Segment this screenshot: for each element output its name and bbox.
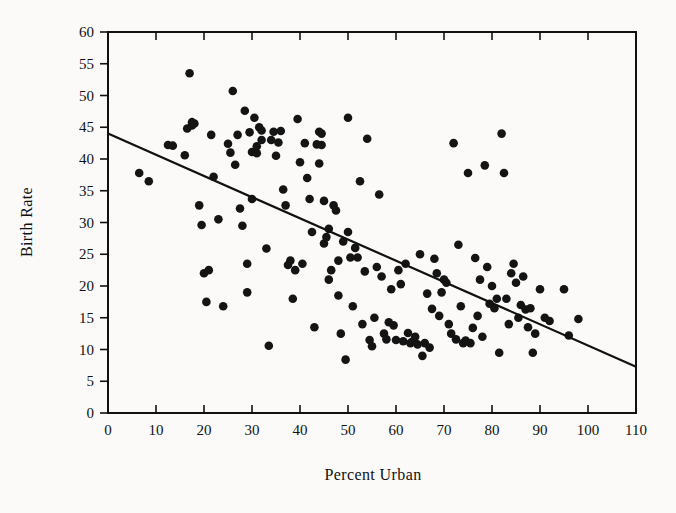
data-point — [526, 304, 535, 313]
data-point — [445, 320, 454, 329]
y-tick-label: 0 — [87, 405, 95, 421]
data-point — [303, 174, 312, 183]
data-point — [229, 87, 238, 96]
data-point — [219, 302, 228, 311]
data-point — [291, 266, 300, 275]
data-point — [394, 266, 403, 275]
data-point — [286, 256, 295, 265]
y-tick-label: 25 — [79, 246, 94, 262]
data-point — [296, 158, 305, 167]
data-point — [207, 131, 216, 140]
axis-frame-rect — [108, 32, 636, 413]
data-point — [382, 335, 391, 344]
data-point — [483, 263, 492, 272]
data-point — [413, 340, 422, 349]
data-point — [476, 275, 485, 284]
data-point — [356, 177, 365, 186]
y-tick-label: 30 — [79, 215, 94, 231]
data-point — [169, 141, 178, 150]
x-tick-label: 0 — [104, 422, 112, 438]
data-point — [250, 113, 259, 122]
data-point — [505, 320, 514, 329]
data-point — [428, 305, 437, 314]
data-point — [238, 221, 247, 230]
chart-canvas: 0102030405060708090100110 05101520253035… — [0, 0, 676, 513]
data-point — [377, 272, 386, 281]
data-point — [308, 228, 317, 237]
x-tick-label: 50 — [341, 422, 356, 438]
x-tick-label: 60 — [389, 422, 404, 438]
data-point — [334, 291, 343, 300]
y-tick-label: 15 — [79, 310, 94, 326]
x-tick-label: 30 — [245, 422, 260, 438]
y-tick-label: 10 — [79, 342, 94, 358]
data-point — [373, 263, 382, 272]
x-tick-label: 90 — [533, 422, 548, 438]
data-point — [334, 256, 343, 265]
data-point — [418, 352, 427, 361]
data-point — [243, 288, 252, 297]
x-tick-label: 100 — [577, 422, 600, 438]
data-point — [332, 206, 341, 215]
data-point — [397, 280, 406, 289]
data-point — [389, 321, 398, 330]
data-point — [320, 197, 329, 206]
data-point — [241, 106, 250, 115]
data-point — [416, 250, 425, 259]
data-point — [399, 337, 408, 346]
data-point — [435, 312, 444, 321]
x-tick-label: 10 — [149, 422, 164, 438]
data-point — [224, 139, 233, 148]
data-point — [457, 302, 466, 311]
y-tick-label: 35 — [79, 183, 94, 199]
y-axis-tick-labels: 051015202530354045505560 — [79, 24, 94, 421]
data-point — [449, 139, 458, 148]
x-tick-label: 70 — [437, 422, 452, 438]
data-point — [272, 152, 281, 161]
scatter-points — [135, 69, 583, 364]
data-point — [327, 266, 336, 275]
data-point — [392, 336, 401, 345]
data-point — [226, 148, 235, 157]
data-point — [502, 294, 511, 303]
data-point — [344, 228, 353, 237]
y-axis-title: Birth Rate — [18, 187, 35, 257]
data-point — [437, 288, 446, 297]
data-point — [205, 266, 214, 275]
data-point — [310, 323, 319, 332]
data-point — [195, 201, 204, 210]
x-tick-label: 80 — [485, 422, 500, 438]
data-point — [387, 285, 396, 294]
data-point — [349, 302, 358, 311]
data-point — [233, 131, 242, 140]
data-point — [481, 161, 490, 170]
y-tick-label: 20 — [79, 278, 94, 294]
data-point — [574, 315, 583, 324]
data-point — [519, 272, 528, 281]
data-point — [423, 289, 432, 298]
x-axis-ticks — [108, 32, 636, 413]
data-point — [243, 259, 252, 268]
data-point — [181, 151, 190, 160]
data-point — [531, 329, 540, 338]
x-tick-label: 110 — [625, 422, 647, 438]
x-axis-title: Percent Urban — [324, 466, 421, 483]
data-point — [190, 119, 199, 128]
data-point — [493, 294, 502, 303]
x-axis-tick-labels: 0102030405060708090100110 — [104, 422, 647, 438]
data-point — [454, 240, 463, 249]
data-point — [298, 259, 307, 268]
data-point — [145, 177, 154, 186]
data-point — [370, 313, 379, 322]
data-point — [545, 317, 554, 326]
data-point — [231, 160, 240, 169]
data-point — [497, 129, 506, 138]
data-point — [353, 253, 362, 262]
data-point — [341, 355, 350, 364]
data-point — [197, 221, 206, 230]
data-point — [265, 341, 274, 350]
data-point — [469, 324, 478, 333]
x-tick-label: 40 — [293, 422, 308, 438]
data-point — [464, 169, 473, 178]
y-axis-ticks — [100, 32, 108, 413]
